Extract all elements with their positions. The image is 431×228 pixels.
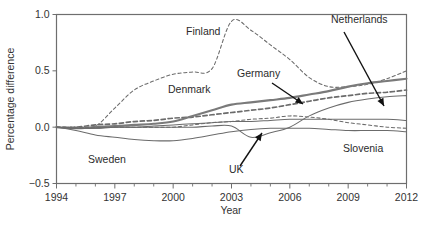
series-label-netherlands: Netherlands bbox=[331, 13, 388, 25]
series-line-finland bbox=[57, 19, 407, 127]
chart-figure: 1.00.50.0−0.5 19941997200020032006200920… bbox=[0, 0, 431, 228]
x-tick-label: 2000 bbox=[161, 191, 185, 203]
series-label-finland: Finland bbox=[186, 25, 221, 37]
x-tick-label: 1994 bbox=[45, 191, 69, 203]
y-tick-label: 0.5 bbox=[35, 64, 50, 76]
annotation-arrow-germany bbox=[272, 83, 303, 104]
series-annotations: FinlandDenmarkSwedenSloveniaGermanyNethe… bbox=[88, 13, 388, 175]
x-tick-label: 2003 bbox=[220, 191, 244, 203]
series-label-denmark: Denmark bbox=[168, 83, 211, 95]
series-label-germany: Germany bbox=[237, 67, 281, 79]
series-line-sweden bbox=[57, 127, 407, 141]
x-axis-ticks: 1994199720002003200620092012 bbox=[45, 184, 419, 203]
y-axis-title: Percentage difference bbox=[4, 48, 16, 151]
y-tick-label: −0.5 bbox=[29, 177, 50, 189]
x-tick-label: 2006 bbox=[278, 191, 302, 203]
y-axis-ticks: 1.00.50.0−0.5 bbox=[29, 8, 57, 189]
series-line-germany bbox=[57, 79, 407, 129]
x-tick-label: 2009 bbox=[336, 191, 360, 203]
y-tick-label: 1.0 bbox=[35, 8, 50, 20]
series-label-sweden: Sweden bbox=[88, 153, 126, 165]
x-tick-label: 1997 bbox=[103, 191, 127, 203]
y-tick-label: 0.0 bbox=[35, 121, 50, 133]
line-chart-canvas: 1.00.50.0−0.5 19941997200020032006200920… bbox=[0, 0, 431, 228]
x-tick-label: 2012 bbox=[395, 191, 419, 203]
x-axis-title: Year bbox=[220, 204, 242, 216]
annotation-arrow-uk bbox=[240, 133, 262, 166]
data-series-group bbox=[57, 19, 407, 141]
series-label-slovenia: Slovenia bbox=[343, 142, 383, 154]
